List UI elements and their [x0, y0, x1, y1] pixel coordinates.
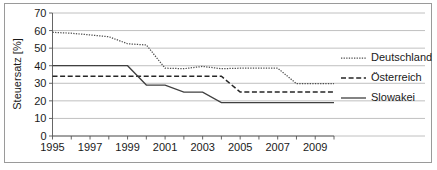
gridlines: [53, 13, 426, 136]
series-lines: [53, 32, 335, 102]
y-tick-label-50: 50: [34, 42, 46, 54]
x-tick-label-1997: 1997: [78, 141, 102, 153]
x-tick-label-1999: 1999: [115, 141, 139, 153]
legend-label-sterreich: Österreich: [371, 71, 422, 83]
y-tick-label-20: 20: [34, 95, 46, 107]
y-tick-label-10: 10: [34, 112, 46, 124]
chart-figure: 010203040506070 199519971999200120032005…: [0, 0, 437, 170]
x-tick-label-2007: 2007: [265, 141, 289, 153]
y-axis-tick-labels: 010203040506070: [34, 7, 46, 142]
y-axis-title: Steuersatz [%]: [11, 38, 23, 110]
y-tick-label-60: 60: [34, 25, 46, 37]
series-line-sterreich: [53, 76, 335, 92]
legend-label-deutschland: Deutschland: [371, 51, 432, 63]
x-tick-label-2005: 2005: [228, 141, 252, 153]
chart-legend: DeutschlandÖsterreichSlowakei: [341, 51, 432, 103]
legend-label-slowakei: Slowakei: [371, 91, 415, 103]
x-tick-label-2009: 2009: [303, 141, 327, 153]
y-tick-label-70: 70: [34, 7, 46, 19]
y-axis-ticks: [49, 13, 53, 136]
x-tick-label-2001: 2001: [153, 141, 177, 153]
x-tick-label-1995: 1995: [40, 141, 64, 153]
x-axis-ticks: [53, 136, 335, 140]
x-axis-tick-labels: 19951997199920012003200520072009: [40, 141, 327, 153]
y-tick-label-40: 40: [34, 60, 46, 72]
y-tick-label-30: 30: [34, 77, 46, 89]
axes: [53, 13, 335, 136]
series-line-slowakei: [53, 66, 335, 103]
line-chart: 010203040506070 199519971999200120032005…: [0, 0, 437, 170]
x-tick-label-2003: 2003: [190, 141, 214, 153]
